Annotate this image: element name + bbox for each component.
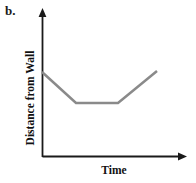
x-axis-label: Time — [42, 163, 186, 177]
x-axis-arrow-icon — [178, 153, 187, 161]
y-axis-label: Distance from Wall — [23, 38, 37, 158]
graph-figure: b. Distance from Wall Time — [0, 0, 196, 183]
data-line-series — [42, 71, 157, 103]
y-axis-arrow-icon — [39, 8, 47, 17]
